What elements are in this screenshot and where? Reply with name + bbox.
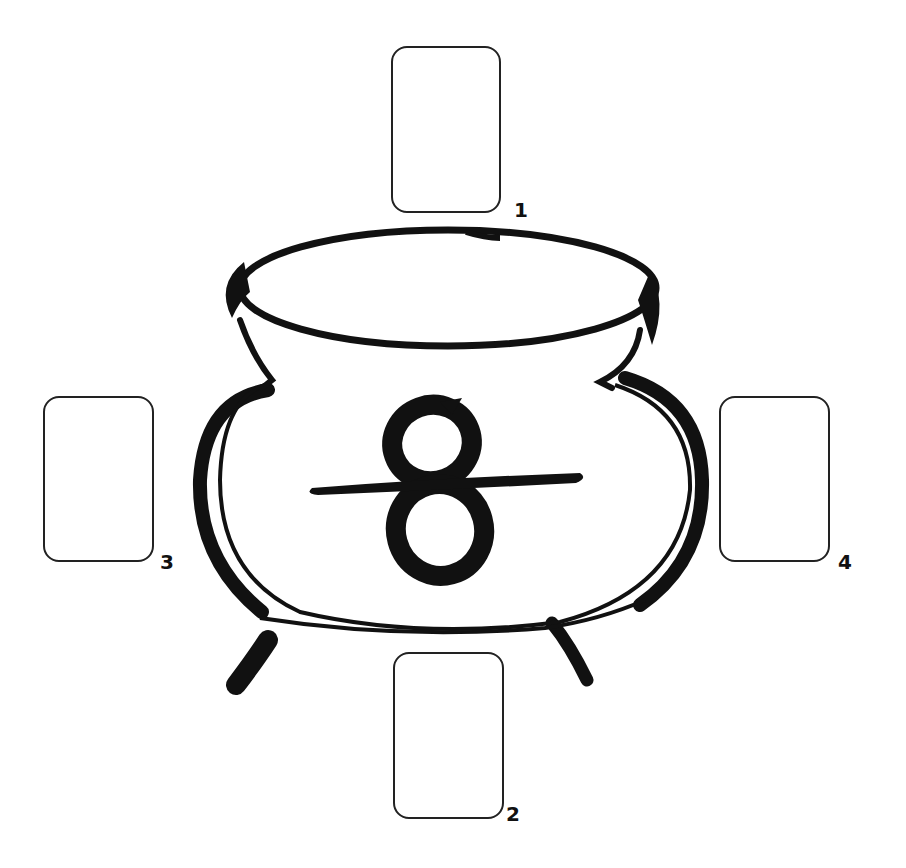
tarot-spread-diagram: 1 2 3 4	[0, 0, 906, 868]
cauldron-rim	[226, 230, 660, 346]
card-slot-2	[393, 652, 504, 819]
infinity-eight-symbol	[310, 394, 584, 586]
card-position-label-2: 2	[506, 804, 520, 824]
card-position-label-1: 1	[514, 200, 528, 220]
card-slot-3	[43, 396, 154, 562]
card-position-label-4: 4	[838, 552, 852, 572]
card-position-label-3: 3	[160, 552, 174, 572]
card-slot-4	[719, 396, 830, 562]
card-slot-1	[391, 46, 501, 213]
